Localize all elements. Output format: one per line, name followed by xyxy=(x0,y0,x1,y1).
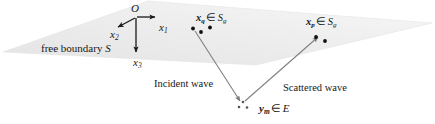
scatterer-subscript: m xyxy=(264,107,270,116)
source-point-dot xyxy=(208,26,212,30)
free-boundary-symbol: S xyxy=(105,42,111,54)
source-set-subscript: g xyxy=(223,17,227,25)
free-boundary-label: free boundary S xyxy=(41,43,111,54)
scatterer-membership-symbol: ∈ xyxy=(270,102,283,114)
scatterer-set-symbol: E xyxy=(283,102,290,114)
scattering-diagram: O x1 x2 x3 free boundary S xq∈Sg xp∈Sg I… xyxy=(0,0,435,124)
scatterer-point-cluster xyxy=(238,101,249,109)
receiver-set-subscript: g xyxy=(333,21,337,29)
axis-x3-subscript: 3 xyxy=(138,61,142,70)
receiver-point-dot xyxy=(323,39,327,43)
scatterer-label: ym∈E xyxy=(259,103,289,116)
incident-wave-label: Incident wave xyxy=(154,79,213,90)
origin-label: O xyxy=(131,3,139,14)
scatterer-dot xyxy=(246,106,249,109)
scatterer-dot xyxy=(242,101,245,104)
receiver-point-dot xyxy=(314,35,318,39)
scatterer-dot xyxy=(238,106,241,109)
axis-x2-subscript: 2 xyxy=(115,33,119,42)
free-boundary-text: free boundary xyxy=(41,42,102,54)
axis-x3-label: x3 xyxy=(133,57,142,70)
axis-x2-label: x2 xyxy=(110,29,119,42)
axis-x1-label: x1 xyxy=(159,22,168,35)
free-boundary-plane xyxy=(3,1,432,65)
source-point-label: xq∈Sg xyxy=(196,13,227,25)
receiver-membership-symbol: ∈ xyxy=(315,16,328,27)
source-point-dot xyxy=(199,30,203,34)
axis-x1-subscript: 1 xyxy=(164,26,168,35)
source-membership-symbol: ∈ xyxy=(205,12,218,23)
source-point-dot xyxy=(191,27,195,31)
scattered-wave-label: Scattered wave xyxy=(283,83,347,94)
receiver-point-label: xp∈Sg xyxy=(306,17,337,29)
